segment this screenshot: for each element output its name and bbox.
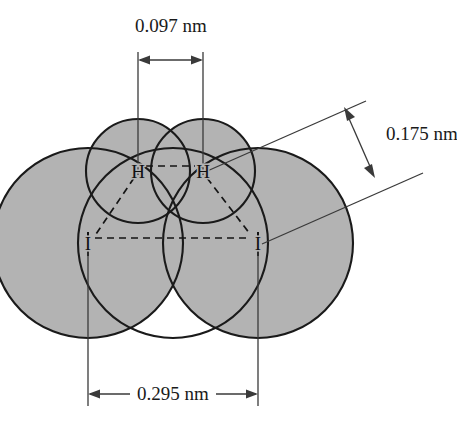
molecular-diagram: 0.097 nm 0.175 nm 0.295 nm [0, 0, 457, 422]
dimension-label-hi: 0.175 nm [386, 123, 457, 144]
atom-label-h-right: H [196, 161, 210, 182]
atom-label-i-right: I [255, 233, 261, 254]
atom-label-h-left: H [131, 161, 145, 182]
dimension-label-ii: 0.295 nm [137, 383, 209, 404]
dimension-label-hh: 0.097 nm [135, 15, 207, 36]
figure-canvas: 0.097 nm 0.175 nm 0.295 nm [0, 0, 457, 422]
atom-label-i-left: I [85, 233, 91, 254]
vdw-envelope [0, 0, 457, 422]
